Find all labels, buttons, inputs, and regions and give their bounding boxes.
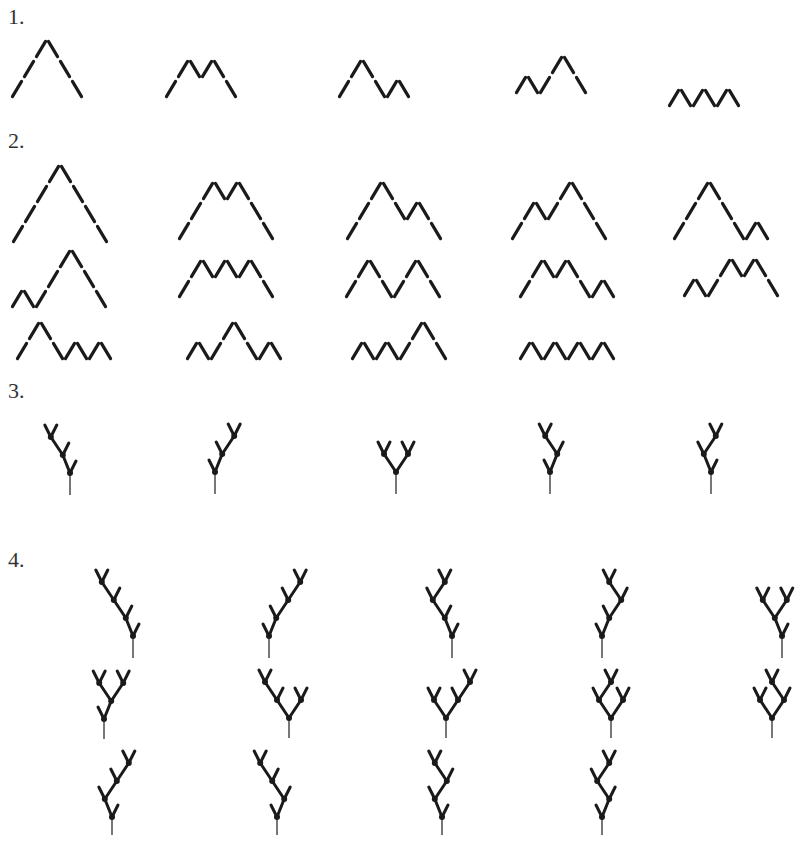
up-step xyxy=(560,183,569,198)
down-step xyxy=(580,281,589,296)
tree-node xyxy=(262,679,268,685)
tree-edge xyxy=(434,700,446,718)
tree-node xyxy=(606,760,612,766)
tree-node xyxy=(298,697,304,703)
up-step xyxy=(179,223,188,238)
tree-edge xyxy=(609,582,621,600)
down-step xyxy=(97,226,106,241)
binary-tree xyxy=(428,670,476,738)
tree-node xyxy=(781,697,787,703)
down-step xyxy=(375,81,384,96)
up-step xyxy=(65,343,74,358)
up-step xyxy=(516,77,525,92)
tree-node xyxy=(430,597,436,603)
up-step xyxy=(708,280,717,295)
up-step xyxy=(25,206,34,221)
tree-edge xyxy=(599,682,611,700)
tree-edge xyxy=(272,781,284,799)
tree-node xyxy=(439,814,445,820)
tree-edge xyxy=(760,700,772,718)
up-step xyxy=(352,343,361,358)
up-step xyxy=(520,343,529,358)
up-step xyxy=(592,281,601,296)
down-step xyxy=(722,203,731,218)
binary-tree xyxy=(45,425,76,495)
tree-node xyxy=(266,633,272,639)
down-step xyxy=(580,343,589,358)
tree-edge xyxy=(597,763,609,781)
down-step xyxy=(729,90,738,105)
up-step xyxy=(29,323,38,338)
tree-node xyxy=(67,470,73,476)
binary-tree xyxy=(754,670,790,738)
up-step xyxy=(376,343,385,358)
tree-node xyxy=(596,697,602,703)
tree-node xyxy=(297,579,303,585)
tree-node xyxy=(432,796,438,802)
up-step xyxy=(520,281,529,296)
down-step xyxy=(53,343,62,358)
tree-node xyxy=(431,697,437,703)
up-step xyxy=(24,61,33,76)
up-step xyxy=(187,343,196,358)
tree-node xyxy=(444,778,450,784)
tree-node xyxy=(449,633,455,639)
binary-tree xyxy=(99,751,135,835)
tree-edge xyxy=(117,763,129,781)
down-step xyxy=(363,61,372,76)
up-step xyxy=(17,343,26,358)
up-step xyxy=(36,291,45,306)
tree-edge xyxy=(260,763,272,781)
down-step xyxy=(73,186,82,201)
down-step xyxy=(576,77,585,92)
tree-node xyxy=(701,451,707,457)
binary-tree xyxy=(698,424,722,494)
tree-node xyxy=(114,778,120,784)
down-step xyxy=(263,281,272,296)
tree-node xyxy=(779,633,785,639)
up-step xyxy=(674,223,683,238)
tree-node xyxy=(772,615,778,621)
down-step xyxy=(101,343,110,358)
up-step xyxy=(347,223,356,238)
tree-node xyxy=(606,579,612,585)
tree-node xyxy=(594,778,600,784)
dyck-paths-section-1 xyxy=(12,41,738,105)
tree-edge xyxy=(458,682,470,700)
down-step xyxy=(732,260,741,275)
down-step xyxy=(604,343,613,358)
down-step xyxy=(424,323,433,338)
tree-edge xyxy=(222,436,234,454)
down-step xyxy=(681,90,690,105)
dyck-path xyxy=(520,343,613,358)
dyck-path xyxy=(187,323,280,358)
up-step xyxy=(746,223,755,238)
dyck-path xyxy=(12,251,105,306)
up-step xyxy=(544,343,553,358)
up-step xyxy=(592,343,601,358)
down-step xyxy=(77,343,86,358)
tree-edge xyxy=(609,600,621,618)
up-step xyxy=(13,226,22,241)
up-step xyxy=(406,261,415,276)
down-step xyxy=(41,323,50,338)
tree-edge xyxy=(114,600,126,618)
tree-node xyxy=(126,760,132,766)
up-step xyxy=(686,203,695,218)
up-step xyxy=(12,81,21,96)
dyck-path xyxy=(684,260,777,295)
down-step xyxy=(215,183,224,198)
diagram-canvas xyxy=(0,0,811,850)
tree-edge xyxy=(435,781,447,799)
down-step xyxy=(24,291,33,306)
down-step xyxy=(48,41,57,56)
down-step xyxy=(203,261,212,276)
down-step xyxy=(705,90,714,105)
tree-node xyxy=(99,579,105,585)
up-step xyxy=(259,343,268,358)
binary-trees-section-3 xyxy=(45,424,722,495)
tree-edge xyxy=(433,582,445,600)
dyck-path xyxy=(12,41,81,96)
tree-edge xyxy=(51,437,63,455)
tree-node xyxy=(108,698,114,704)
